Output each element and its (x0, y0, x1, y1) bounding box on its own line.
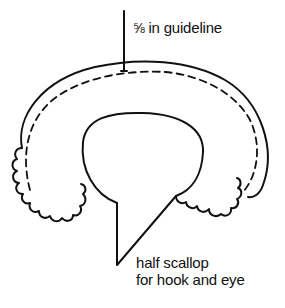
fraction-five-eighths: ⅝ (133, 20, 144, 36)
half-scallop-line2: for hook and eye (136, 271, 245, 288)
half-scallop-label: half scallop for hook and eye (136, 254, 245, 288)
scallops-left (13, 148, 86, 221)
outer-edge (21, 61, 268, 197)
guideline-label: ⅝ in guideline (133, 19, 222, 37)
half-scallop-line1: half scallop (136, 254, 245, 271)
guideline-text: in guideline (144, 19, 221, 36)
seam-guideline (26, 72, 257, 192)
scallops-right (176, 178, 241, 216)
neckline (83, 113, 203, 203)
